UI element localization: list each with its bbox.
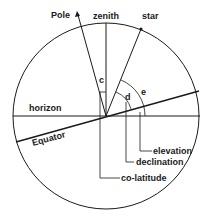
angle-c-label: c [99,75,104,85]
star-label: star [142,11,159,21]
celestial-diagram: Pole zenith star horizon Equator c d e e… [0,0,213,223]
elevation-leader [140,112,152,151]
pole-line [78,15,106,116]
declination-label: declination [136,157,184,167]
star-dot-icon [139,27,142,30]
pole-arrow-icon [75,11,80,17]
co-latitude-label: co-latitude [121,173,167,183]
angle-d-label: d [125,92,131,102]
zenith-label: zenith [93,11,119,21]
star-line [106,29,141,116]
horizon-label: horizon [29,103,62,113]
angle-e-label: e [141,87,146,97]
pole-label: Pole [51,10,70,20]
elevation-label: elevation [153,146,192,156]
